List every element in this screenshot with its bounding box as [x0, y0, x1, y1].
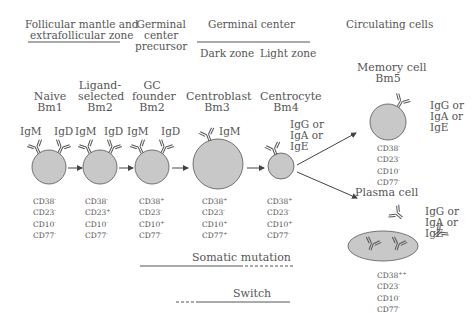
stage-memory-name: Memory cell Bm5: [357, 62, 419, 84]
stage-name-line: Bm5: [357, 73, 419, 84]
stage-name-line: Bm3: [186, 102, 248, 113]
zone-circulating-cells: Circulating cells: [346, 19, 433, 30]
cd-markers-memory: CD38- CD23- CD10- CD77-: [377, 142, 400, 187]
stage-gc-founder-name: GC founder Bm2: [132, 80, 172, 113]
cd-markers-gc-founder: CD38+ CD23- CD10+ CD77-: [139, 195, 165, 240]
stage-name-line: Bm2: [132, 102, 172, 113]
stage-name-line: Bm4: [260, 102, 312, 113]
ig-label: IgM: [219, 126, 241, 137]
cd-markers-centroblast: CD38+ CD23- CD10+ CD77+: [202, 195, 228, 240]
switch-label: Switch: [233, 288, 271, 299]
stage-centrocyte-name: Centrocyte Bm4: [260, 91, 312, 113]
ig-label: IgM: [127, 126, 149, 137]
stage-name-line: Bm1: [32, 102, 68, 113]
ig-line: IgE: [290, 141, 324, 152]
somatic-mutation-label: Somatic mutation: [192, 252, 291, 263]
ig-label: IgD: [161, 126, 180, 137]
cd-markers-naive: CD38- CD23- CD10- CD77-: [33, 195, 56, 240]
cell-ligand-selected: [78, 139, 123, 184]
stage-centroblast-name: Centroblast Bm3: [186, 91, 248, 113]
arrow-to-plasma: [297, 172, 357, 198]
cell-memory: [370, 93, 411, 140]
ig-label-centrocyte: IgG or IgA or IgE: [290, 119, 324, 152]
ig-label: IgD: [104, 126, 123, 137]
zone1-line2: extrafollicular zone: [25, 30, 139, 41]
cell-naive: [27, 139, 72, 184]
light-zone-label: Light zone: [260, 48, 316, 59]
ig-line: IgE: [425, 228, 459, 239]
cell-gc-founder: [130, 139, 175, 184]
zone-gc-precursor: Germinal center precursor: [135, 19, 187, 52]
stage-name-line: Bm2: [78, 102, 122, 113]
zone-follicular-mantle: Follicular mantle and extrafollicular zo…: [25, 19, 139, 41]
stage-ligand-name: Ligand- selected Bm2: [78, 80, 122, 113]
ig-label-plasma: IgG or IgA or IgE: [425, 206, 459, 239]
ig-label: IgD: [54, 126, 73, 137]
zone2-line3: precursor: [135, 41, 187, 52]
ig-label: IgM: [20, 126, 42, 137]
dark-zone-label: Dark zone: [200, 48, 254, 59]
ig-label: IgM: [75, 126, 97, 137]
cd-markers-centrocyte: CD38+ CD23- CD10+ CD77-: [267, 195, 293, 240]
cd-markers-plasma: CD38++ CD23- CD10- CD77-: [377, 269, 407, 313]
zone-germinal-center: Germinal center: [208, 19, 295, 30]
ig-label-memory: IgG or IgA or IgE: [430, 100, 464, 133]
ig-line: IgE: [430, 122, 464, 133]
cd-markers-ligand: CD38- CD23+ CD10- CD77-: [85, 195, 111, 240]
stage-plasma-name: Plasma cell: [355, 187, 418, 198]
stage-naive-name: Naive Bm1: [32, 91, 68, 113]
